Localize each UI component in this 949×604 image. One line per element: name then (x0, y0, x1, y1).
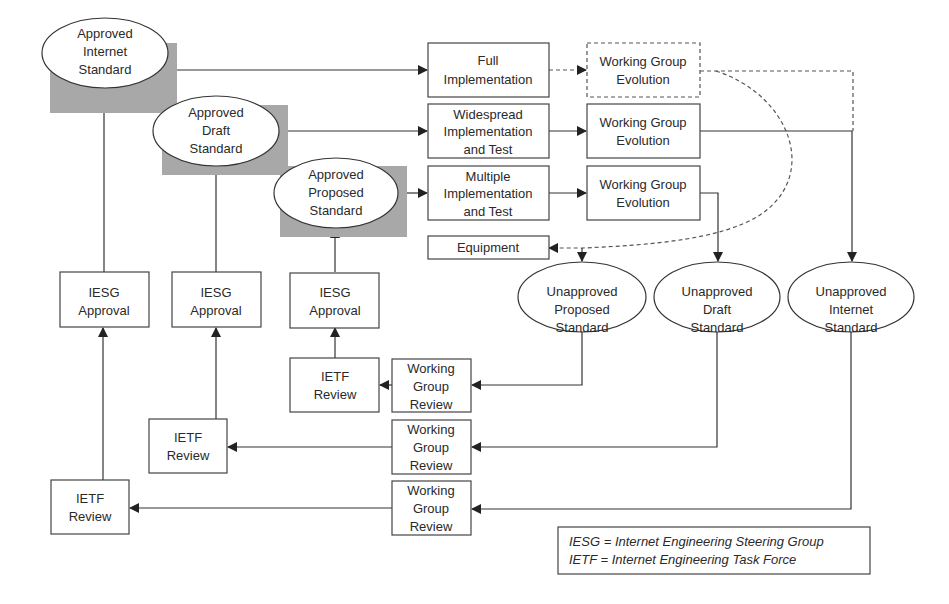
wg-evolution-draft-box[interactable]: Working Group Evolution (587, 104, 700, 158)
iesg-approval-draft-box[interactable]: IESG Approval (172, 272, 261, 327)
label-line: Working Group (599, 177, 686, 192)
label-line: Approved (308, 167, 364, 182)
label-line: and Test (464, 142, 513, 157)
label-line: Draft (703, 302, 732, 317)
label-line: Group (413, 440, 449, 455)
label-line: Review (314, 387, 357, 402)
label-line: Review (69, 509, 112, 524)
label-line: Evolution (616, 195, 669, 210)
label-line: and Test (464, 204, 513, 219)
label-line: Working (407, 361, 454, 376)
arrow-unapproved-proposed-to-wg-review (472, 332, 582, 385)
label-line: Standard (691, 320, 744, 335)
label-line: Approved (188, 105, 244, 120)
box-rect (587, 104, 700, 158)
approved-internet-standard[interactable]: Approved Internet Standard (42, 18, 177, 113)
wg-review-proposed-box[interactable]: Working Group Review (392, 359, 471, 412)
full-implementation-box[interactable]: Full Implementation (428, 43, 549, 97)
label-line: IETF (174, 430, 202, 445)
label-line: Standard (556, 320, 609, 335)
label-line: Approval (78, 303, 129, 318)
wg-review-draft-box[interactable]: Working Group Review (392, 420, 471, 474)
label-line: Standard (310, 203, 363, 218)
label-line: Multiple (466, 169, 511, 184)
unapproved-draft-standard[interactable]: Unapproved Draft Standard (654, 262, 780, 335)
label-line: Implementation (444, 124, 533, 139)
label-line: Working Group (599, 54, 686, 69)
legend: IESG = Internet Engineering Steering Gro… (558, 527, 870, 574)
ietf-review-proposed-box[interactable]: IETF Review (290, 358, 379, 412)
wg-evolution-internet-box[interactable]: Working Group Evolution (587, 43, 700, 97)
label-line: Evolution (616, 133, 669, 148)
label-line: Full (478, 53, 499, 68)
label-line: Working (407, 483, 454, 498)
box-rect (149, 419, 227, 473)
label-line: Internet (83, 44, 127, 59)
arrow-unapproved-internet-to-wg-review (472, 332, 851, 509)
label-line: Review (410, 458, 453, 473)
label-line: Approval (190, 303, 241, 318)
label-line: Review (410, 397, 453, 412)
label-line: Working (407, 422, 454, 437)
legend-ietf: IETF = Internet Engineering Task Force (569, 552, 796, 567)
box-rect (51, 480, 129, 534)
label-line: Approved (77, 26, 133, 41)
label-line: Widespread (453, 107, 522, 122)
box-rect (290, 358, 379, 412)
label-line: Standard (190, 141, 243, 156)
label-line: IESG (200, 285, 231, 300)
dashed-evolution-internet-connector (700, 71, 853, 131)
label-line: Group (413, 501, 449, 516)
label-line: Evolution (616, 72, 669, 87)
label-line: IESG (319, 285, 350, 300)
multiple-implementation-box[interactable]: Multiple Implementation and Test (428, 166, 549, 220)
label-line: Equipment (457, 240, 520, 255)
box-rect (428, 43, 549, 97)
ietf-standards-process-diagram: Approved Internet Standard Approved Draf… (0, 0, 949, 604)
label-line: Draft (202, 123, 231, 138)
label-line: IETF (321, 369, 349, 384)
legend-iesg: IESG = Internet Engineering Steering Gro… (569, 534, 824, 549)
arrow-unapproved-draft-to-wg-review (472, 332, 717, 447)
label-line: Proposed (308, 185, 364, 200)
wg-evolution-proposed-box[interactable]: Working Group Evolution (587, 166, 700, 220)
label-line: Standard (79, 62, 132, 77)
label-line: IETF (76, 491, 104, 506)
iesg-approval-proposed-box[interactable]: IESG Approval (290, 273, 379, 328)
unapproved-internet-standard[interactable]: Unapproved Internet Standard (788, 262, 914, 335)
label-line: Group (413, 379, 449, 394)
box-rect-dashed (587, 43, 700, 97)
arrow-evolution-draft-to-unapproved-internet (700, 131, 852, 261)
label-line: Implementation (444, 186, 533, 201)
approved-proposed-standard[interactable]: Approved Proposed Standard (274, 158, 407, 237)
ietf-review-draft-box[interactable]: IETF Review (149, 419, 227, 473)
label-line: Unapproved (547, 284, 618, 299)
label-line: Approval (309, 303, 360, 318)
label-line: Review (410, 519, 453, 534)
label-line: IESG (88, 285, 119, 300)
label-line: Implementation (444, 72, 533, 87)
arrow-evolution-proposed-to-unapproved-draft (700, 193, 718, 261)
approved-draft-standard[interactable]: Approved Draft Standard (153, 96, 288, 175)
iesg-approval-internet-box[interactable]: IESG Approval (60, 272, 149, 327)
box-rect (290, 273, 379, 328)
label-line: Unapproved (682, 284, 753, 299)
label-line: Working Group (599, 115, 686, 130)
label-line: Review (167, 448, 210, 463)
label-line: Standard (825, 320, 878, 335)
label-line: Proposed (554, 302, 610, 317)
label-line: Internet (829, 302, 873, 317)
ietf-review-internet-box[interactable]: IETF Review (51, 480, 129, 534)
widespread-implementation-box[interactable]: Widespread Implementation and Test (428, 104, 549, 158)
label-line: Unapproved (816, 284, 887, 299)
wg-review-internet-box[interactable]: Working Group Review (392, 481, 471, 535)
unapproved-proposed-standard[interactable]: Unapproved Proposed Standard (518, 262, 646, 335)
equipment-box[interactable]: Equipment (428, 236, 549, 259)
box-rect (587, 166, 700, 220)
